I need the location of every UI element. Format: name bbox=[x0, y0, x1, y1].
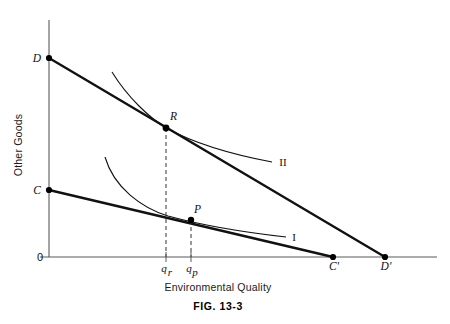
ticklabel-qp: q p bbox=[186, 262, 198, 278]
label-d-prime: D' bbox=[380, 260, 392, 272]
ticklabel-qp-sub: p bbox=[191, 266, 198, 278]
label-d: D bbox=[32, 52, 42, 64]
ticklabel-qr-sub: r bbox=[168, 266, 173, 278]
label-c: C bbox=[33, 184, 41, 196]
label-r: R bbox=[169, 110, 177, 122]
ticklabel-qr: q r bbox=[161, 262, 173, 278]
figure-caption: FIG. 13-3 bbox=[193, 300, 243, 312]
point-r[interactable] bbox=[163, 125, 170, 132]
point-d[interactable] bbox=[46, 55, 52, 61]
chart-svg: D C R P C' D' II I q r q p 0 Environment… bbox=[0, 0, 450, 324]
point-c[interactable] bbox=[46, 187, 52, 193]
label-c-prime: C' bbox=[329, 260, 340, 272]
origin-label: 0 bbox=[37, 251, 43, 263]
point-p[interactable] bbox=[188, 217, 194, 223]
label-curve-ii: II bbox=[279, 156, 287, 168]
figure-container: D C R P C' D' II I q r q p 0 Environment… bbox=[0, 0, 450, 324]
ticklabel-qr-base: q bbox=[161, 262, 167, 274]
label-p: P bbox=[193, 203, 201, 215]
x-axis-title: Environmental Quality bbox=[165, 281, 272, 293]
indifference-curve-ii bbox=[112, 72, 272, 162]
label-curve-i: I bbox=[292, 231, 296, 243]
y-axis-title: Other Goods bbox=[12, 114, 24, 176]
